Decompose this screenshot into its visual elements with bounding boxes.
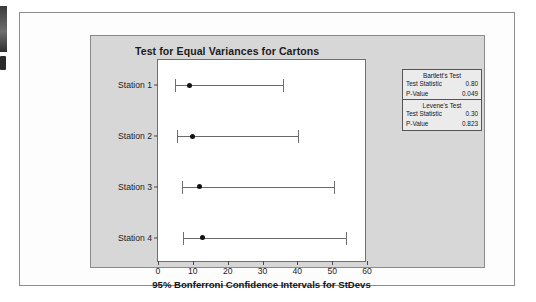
y-axis-category-label: Station 1 [118, 80, 152, 90]
confidence-interval-upper-cap [298, 130, 299, 143]
chart-title: Test for Equal Variances for Cartons [91, 45, 528, 57]
statistics-section: Bartlett's TestTest Statistic0.80P-Value… [403, 70, 481, 99]
figure-frame: Test for Equal Variances for Cartons 010… [19, 12, 515, 286]
x-axis-tick-label: 60 [362, 266, 372, 276]
x-axis-tick-label: 10 [188, 266, 198, 276]
y-axis-tick [154, 237, 158, 238]
confidence-interval-line [183, 238, 346, 239]
graph-panel: Test for Equal Variances for Cartons 010… [90, 35, 485, 268]
x-axis-tick [228, 261, 229, 265]
statistics-section-heading: Levene's Test [403, 100, 481, 110]
y-axis-tick [154, 186, 158, 187]
page-edge-artifact-bottom [0, 56, 6, 70]
statistics-row: Test Statistic0.30 [403, 110, 481, 120]
x-axis-tick [263, 261, 264, 265]
x-axis-tick-label: 0 [156, 266, 161, 276]
confidence-interval-lower-cap [177, 130, 178, 143]
confidence-interval-upper-cap [334, 181, 335, 194]
statistics-row-label: Test Statistic [406, 110, 442, 119]
stdev-point-marker [190, 134, 195, 139]
plot-area: 010203040506095% Bonferroni Confidence I… [157, 59, 366, 262]
x-axis-tick-label: 40 [293, 266, 303, 276]
confidence-interval-lower-cap [183, 232, 184, 245]
x-axis-tick [193, 261, 194, 265]
statistics-row: P-Value0.823 [403, 120, 481, 130]
y-axis-tick [154, 136, 158, 137]
confidence-interval-line [182, 187, 334, 188]
y-axis-category-label: Station 2 [118, 131, 152, 141]
statistics-section-heading: Bartlett's Test [403, 70, 481, 80]
statistics-section: Levene's TestTest Statistic0.30P-Value0.… [403, 99, 481, 129]
confidence-interval-line [177, 136, 298, 137]
x-axis-label: 95% Bonferroni Confidence Intervals for … [152, 279, 371, 290]
statistics-row: P-Value0.049 [403, 90, 481, 100]
x-axis-tick [367, 261, 368, 265]
plot-inner: 010203040506095% Bonferroni Confidence I… [158, 60, 365, 261]
statistics-row-label: P-Value [406, 120, 428, 129]
statistics-row: Test Statistic0.80 [403, 80, 481, 90]
y-axis-category-label: Station 3 [118, 182, 152, 192]
statistics-row-label: Test Statistic [406, 80, 442, 89]
stdev-point-marker [200, 235, 205, 240]
confidence-interval-upper-cap [283, 79, 284, 92]
page-edge-artifact-top [0, 6, 7, 52]
statistics-row-value: 0.80 [466, 80, 478, 89]
y-axis-category-label: Station 4 [118, 233, 152, 243]
statistics-row-value: 0.049 [462, 90, 478, 99]
x-axis-tick-label: 30 [258, 266, 268, 276]
statistics-box: Bartlett's TestTest Statistic0.80P-Value… [402, 69, 482, 131]
statistics-row-value: 0.823 [462, 120, 478, 129]
y-axis-tick [154, 85, 158, 86]
x-axis-tick [297, 261, 298, 265]
x-axis-tick-label: 50 [327, 266, 337, 276]
confidence-interval-lower-cap [175, 79, 176, 92]
x-axis-tick-label: 20 [223, 266, 233, 276]
statistics-row-label: P-Value [406, 90, 428, 99]
x-axis-tick [158, 261, 159, 265]
x-axis-tick [332, 261, 333, 265]
confidence-interval-lower-cap [182, 181, 183, 194]
confidence-interval-upper-cap [346, 232, 347, 245]
stdev-point-marker [187, 83, 192, 88]
statistics-row-value: 0.30 [466, 110, 478, 119]
stdev-point-marker [197, 184, 202, 189]
